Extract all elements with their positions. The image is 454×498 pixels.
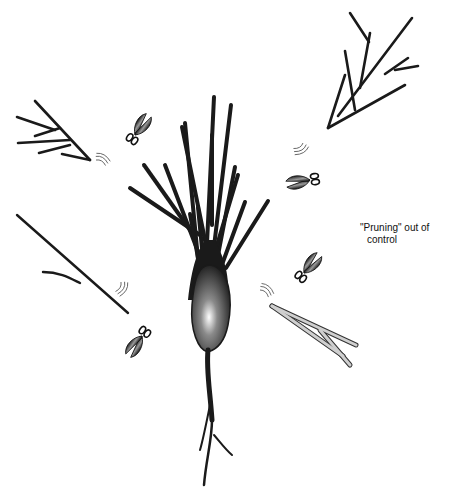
motion-lines-icon bbox=[93, 151, 111, 166]
fragment-top-right bbox=[328, 13, 418, 128]
pruning-annotation: "Pruning" out of control bbox=[360, 222, 429, 246]
motion-lines-icon bbox=[292, 142, 310, 157]
scissors-icon bbox=[285, 172, 320, 191]
annotation-line-1: "Pruning" out of bbox=[360, 222, 429, 234]
motion-lines-icon bbox=[258, 282, 276, 299]
motion-lines-icon bbox=[115, 279, 130, 297]
scissors-icon bbox=[124, 112, 154, 147]
fragment-left bbox=[17, 215, 128, 313]
scissors-icon bbox=[293, 250, 324, 284]
fragment-faded bbox=[272, 306, 356, 365]
pruning-illustration bbox=[0, 0, 454, 498]
annotation-line-2: control bbox=[360, 234, 429, 246]
scissors-icon bbox=[123, 325, 153, 360]
fragment-top-left bbox=[17, 101, 90, 160]
neuron bbox=[130, 97, 268, 485]
